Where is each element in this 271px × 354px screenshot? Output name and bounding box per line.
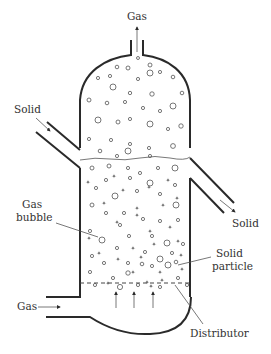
gas-bubble — [179, 124, 183, 128]
gas-bubble — [128, 142, 131, 145]
solid-inlet-pipe — [36, 122, 80, 168]
gas-bubble — [118, 223, 121, 226]
gas-bubble — [150, 234, 153, 237]
gas-bubble — [141, 217, 144, 220]
gas-bubble — [158, 109, 161, 112]
gas-bubble — [138, 171, 141, 174]
solid-particle — [130, 245, 135, 250]
solid-particle — [96, 250, 101, 255]
gas-bubbles-group — [87, 57, 189, 290]
gas-bubble — [105, 101, 109, 105]
gas-bubble — [95, 117, 101, 123]
gas-bubble — [94, 186, 97, 189]
solid-particle — [138, 254, 143, 259]
solid-particle — [115, 256, 120, 261]
solid-inlet-arrow — [36, 118, 50, 131]
gas-bubble — [158, 219, 161, 222]
gas-bubble — [126, 66, 130, 70]
gas-bubble — [148, 154, 151, 157]
solid-particle-label-line2: particle — [212, 260, 253, 272]
gas-bubble — [174, 260, 178, 264]
gas-bubble — [111, 276, 114, 279]
gas-bubble — [128, 117, 131, 120]
gas-bubble — [176, 276, 179, 279]
gas-bubble — [173, 183, 176, 186]
gas-bubble-label-line2: bubble — [16, 211, 53, 223]
gas-bubble — [147, 70, 153, 76]
gas-bubble — [127, 234, 130, 237]
solid-particle — [120, 187, 125, 192]
gas-bubble — [164, 240, 170, 246]
gas-bubble — [147, 121, 153, 127]
fluidized-bed-diagram: Gas Solid Solid Gas bubble Solid particl… — [0, 0, 271, 354]
gas-bubble — [147, 146, 150, 149]
gas-bubble — [99, 237, 105, 243]
solid-particle — [134, 212, 139, 217]
gas-bubble — [158, 192, 161, 195]
gas-bubble — [108, 74, 111, 77]
gas-bubble — [110, 84, 116, 90]
gas-bubble — [112, 193, 118, 199]
solid-particle — [146, 184, 151, 189]
gas-bubble — [87, 137, 90, 140]
solid-particle — [179, 266, 184, 271]
gas-bubble — [123, 100, 126, 103]
gas-bubble — [140, 262, 144, 266]
bed-surface — [80, 157, 190, 161]
gas-bubble — [109, 138, 112, 141]
gas-bubble — [126, 271, 130, 275]
gas-bubble — [126, 261, 129, 264]
solid-particle — [134, 205, 139, 210]
solid-particle — [157, 269, 162, 274]
solid-particle — [105, 280, 110, 285]
solid-particle — [144, 279, 149, 284]
gas-bubble — [128, 176, 131, 179]
gas-bubble-label-line1: Gas — [22, 198, 42, 210]
gas-bubble — [90, 203, 94, 207]
gas-bubble — [156, 166, 159, 169]
solid-particle — [130, 269, 135, 274]
gas-bubble — [170, 251, 173, 254]
solid-inlet-label: Solid — [14, 103, 41, 115]
gas-bubble — [93, 283, 96, 286]
gas-inlet-label: Gas — [17, 300, 37, 312]
solid-particle — [175, 238, 180, 243]
solid-particle — [151, 241, 156, 246]
gas-bubble — [117, 284, 122, 289]
solid-particle — [178, 252, 183, 257]
gas-bubble — [173, 202, 179, 208]
gas-bubble — [98, 149, 102, 153]
solid-particle — [147, 228, 152, 233]
solid-outlet-pipe — [190, 158, 234, 213]
solid-particle-label-line1: Solid — [216, 247, 243, 259]
solid-particle — [101, 200, 106, 205]
gas-bubble — [122, 211, 125, 214]
gas-outlet-label: Gas — [127, 10, 147, 22]
gas-bubble — [136, 283, 139, 286]
distributor-label: Distributor — [190, 327, 250, 339]
gas-bubble — [141, 106, 144, 109]
gas-bubble — [88, 270, 91, 273]
solid-particle — [86, 235, 91, 240]
gas-bubble — [90, 254, 93, 257]
gas-bubble — [102, 261, 105, 264]
gas-bubble — [104, 211, 107, 214]
solid-particle — [159, 277, 164, 282]
gas-bubble — [176, 218, 179, 221]
gas-bubble — [128, 91, 131, 94]
gas-bubble — [158, 285, 161, 288]
solid-particle — [85, 179, 90, 184]
gas-bubble — [136, 77, 139, 80]
solid-particle — [167, 224, 172, 229]
gas-bubble — [104, 178, 107, 181]
solid-outlet-label: Solid — [232, 217, 259, 229]
gas-bubble — [87, 98, 91, 102]
gas-bubble — [166, 127, 169, 130]
solid-particle — [165, 177, 170, 182]
gas-bubble — [185, 283, 188, 286]
gas-bubble — [170, 103, 176, 109]
gas-bubble — [90, 166, 94, 170]
gas-bubble — [147, 180, 153, 186]
solid-particle — [148, 283, 153, 288]
vessel-top-dome — [80, 40, 131, 148]
